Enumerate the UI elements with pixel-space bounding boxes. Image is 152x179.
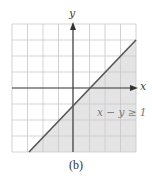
inequality-label: x − y ≥ 1 <box>97 106 146 118</box>
graph <box>0 0 152 179</box>
figure-caption: (b) <box>0 158 152 173</box>
x-axis-label: x <box>140 80 146 93</box>
y-axis-arrow-icon <box>70 22 76 30</box>
y-axis-label: y <box>69 7 75 20</box>
